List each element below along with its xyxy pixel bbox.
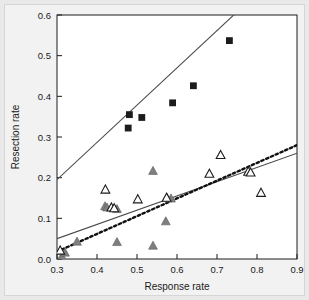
- x-tick-label: 0.7: [210, 264, 223, 275]
- y-tick-label: 0.2: [38, 172, 51, 183]
- x-tick-labels: 0.30.40.50.60.70.80.9: [50, 264, 303, 275]
- x-tick-label: 0.9: [290, 264, 303, 275]
- x-tick-label: 0.4: [90, 264, 103, 275]
- y-tick-label: 0.4: [38, 91, 51, 102]
- y-axis-title: Resection rate: [10, 104, 21, 169]
- data-point-filled-square: [169, 99, 176, 106]
- y-tick-label: 0.5: [38, 50, 51, 61]
- data-point-filled-square: [125, 125, 132, 132]
- data-point-filled-square: [126, 111, 133, 118]
- scatter-plot: 0.30.40.50.60.70.80.9 0.00.10.20.30.40.5…: [5, 5, 304, 295]
- plot-background: [57, 15, 297, 259]
- y-tick-labels: 0.00.10.20.30.40.50.6: [38, 10, 51, 265]
- figure-container: 0.30.40.50.60.70.80.9 0.00.10.20.30.40.5…: [0, 0, 309, 300]
- x-tick-label: 0.6: [170, 264, 183, 275]
- x-tick-label: 0.3: [50, 264, 63, 275]
- data-point-filled-square: [226, 37, 233, 44]
- x-tick-label: 0.5: [130, 264, 143, 275]
- data-point-filled-square: [190, 82, 197, 89]
- x-tick-label: 0.8: [250, 264, 263, 275]
- plot-area: 0.30.40.50.60.70.80.9 0.00.10.20.30.40.5…: [38, 5, 304, 275]
- y-tick-label: 0.0: [38, 254, 51, 265]
- x-axis-title: Response rate: [144, 281, 209, 292]
- figure-panel: 0.30.40.50.60.70.80.9 0.00.10.20.30.40.5…: [4, 4, 305, 296]
- y-tick-label: 0.3: [38, 132, 51, 143]
- y-tick-label: 0.6: [38, 10, 51, 21]
- y-tick-label: 0.1: [38, 213, 51, 224]
- data-point-filled-square: [138, 114, 145, 121]
